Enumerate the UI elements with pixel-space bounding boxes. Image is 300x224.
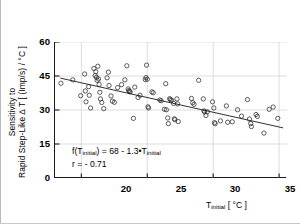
y-tick-label-45: 45 bbox=[28, 71, 50, 81]
page-edge-bottom bbox=[0, 223, 300, 224]
data-points bbox=[59, 63, 280, 135]
y-axis-label-line1: Sensitivity to bbox=[7, 46, 17, 178]
regression-annotation: f(Tinitial) = 68 - 1.3•Tinitial r = - 0.… bbox=[72, 146, 161, 169]
y-axis-label-line2: Rapid Step-Like ∆ T [ (Imp/s) / °C ] bbox=[17, 46, 27, 178]
y-tick-label-15: 15 bbox=[28, 139, 50, 149]
x-tick-label-25: 25 bbox=[168, 184, 194, 194]
equation-mid: ) = 68 - 1.3 bbox=[97, 146, 139, 156]
regression-line bbox=[60, 78, 283, 128]
chart-figure: Sensitivity to Rapid Step-Like ∆ T [ (Im… bbox=[0, 0, 300, 224]
delta-symbol: ∆ bbox=[17, 109, 27, 114]
equation-subscript-1: initial bbox=[83, 149, 97, 156]
equation-prefix: f(T bbox=[72, 146, 83, 156]
y-axis-label-line2-pre: Rapid Step-Like bbox=[17, 114, 27, 178]
correlation-coefficient: r = - 0.71 bbox=[72, 159, 161, 170]
x-axis-label-units: [ °C ] bbox=[225, 200, 247, 210]
y-tick-label-0: 0 bbox=[28, 173, 50, 183]
x-axis-label: Tinitial [ °C ] bbox=[206, 200, 247, 212]
y-axis-label-line2-post: T [ (Imp/s) / °C ] bbox=[17, 46, 27, 109]
equation-subscript-2: initial bbox=[147, 149, 161, 156]
y-tick-label-60: 60 bbox=[28, 37, 50, 47]
x-tick-label-35: 35 bbox=[277, 184, 300, 194]
x-tick-label-30: 30 bbox=[222, 184, 248, 194]
regression-equation: f(Tinitial) = 68 - 1.3•Tinitial bbox=[72, 146, 161, 159]
y-tick-label-30: 30 bbox=[28, 105, 50, 115]
x-axis-label-subscript: initial bbox=[211, 203, 225, 210]
x-tick-label-20: 20 bbox=[113, 184, 139, 194]
